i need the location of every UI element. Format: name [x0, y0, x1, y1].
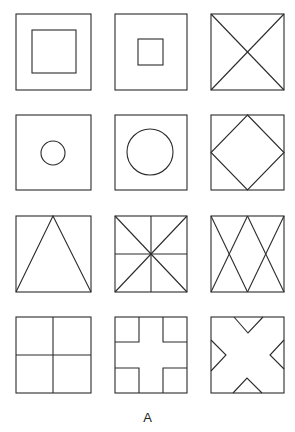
- panel-square-in-square-large: [16, 14, 91, 90]
- figure-canvas: [0, 0, 295, 432]
- panel-x-notches: [211, 317, 284, 393]
- panel-star-lines: [115, 216, 187, 292]
- panel-square-in-square-small: [115, 14, 187, 90]
- panel-double-x: [211, 216, 284, 292]
- panel-square-with-diagonals: [211, 14, 284, 90]
- panel-plus-cross: [115, 317, 187, 393]
- panel-small-circle: [16, 115, 91, 190]
- panel-large-circle: [115, 115, 187, 190]
- panel-four-quadrants: [16, 317, 91, 393]
- panel-inscribed-diamond: [211, 115, 284, 190]
- panel-inscribed-triangle: [16, 216, 91, 292]
- figure-caption: A: [0, 410, 295, 425]
